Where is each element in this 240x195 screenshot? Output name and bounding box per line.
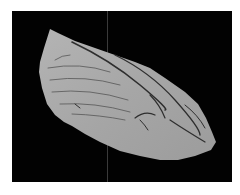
- surface-body: [39, 29, 216, 160]
- rendered-surface: [0, 0, 240, 195]
